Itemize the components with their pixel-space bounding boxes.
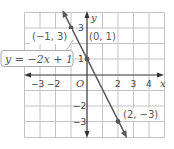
coordinate-graph: y x O −3 −2 2 3 4 3 1 −2 −3 (−1, 3) (0, … <box>0 0 174 149</box>
point-label: (−1, 3) <box>32 31 67 42</box>
point-0-1 <box>85 57 90 62</box>
x-tick-label: −3 <box>31 79 44 89</box>
y-axis-down-arrow-icon <box>85 131 90 138</box>
x-axis-left-arrow-icon <box>24 73 31 78</box>
equation-label: y = −2x + 1 <box>4 53 73 66</box>
point-label: (0, 1) <box>89 31 116 42</box>
y-tick-label: −3 <box>73 117 86 127</box>
x-axis-label: x <box>160 78 166 89</box>
x-tick-label: 4 <box>146 79 152 89</box>
x-tick-label: 3 <box>131 79 137 89</box>
x-tick-label: −2 <box>47 79 60 89</box>
y-tick-label: −2 <box>73 101 86 111</box>
point-label: (2, −3) <box>123 109 158 120</box>
y-tick-label: 3 <box>78 23 84 33</box>
point-2-neg3 <box>116 119 121 124</box>
origin-label: O <box>76 78 84 89</box>
y-tick-label: 1 <box>78 54 84 64</box>
y-axis-label: y <box>90 12 97 23</box>
x-axis-right-arrow-icon <box>157 73 164 78</box>
x-tick-label: 2 <box>115 79 121 89</box>
